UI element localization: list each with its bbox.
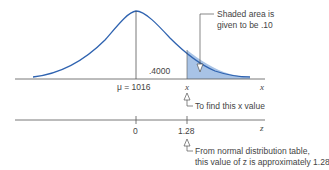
- shaded-tail-area: [187, 50, 250, 79]
- z-table-callout-line2: this value of z is approximately 1.28: [195, 157, 329, 167]
- z-axis-label: z: [259, 123, 264, 133]
- z-table-arrow-icon: [184, 139, 190, 146]
- find-x-callout: To find this x value: [195, 101, 265, 111]
- normal-distribution-diagram: .4000 Shaded area is given to be .10 μ =…: [0, 0, 329, 170]
- shaded-callout-line2: given to be .10: [217, 20, 273, 30]
- z-tick-128-label: 1.28: [178, 126, 195, 136]
- z-table-leader: [187, 146, 193, 151]
- find-x-leader: [187, 100, 193, 106]
- x-marker-label: x: [184, 82, 189, 92]
- shaded-callout-line1: Shaded area is: [217, 9, 274, 19]
- area-label: .4000: [149, 66, 171, 76]
- z-table-callout-line1: From normal distribution table,: [195, 146, 310, 156]
- z-tick-zero-label: 0: [133, 126, 138, 136]
- find-x-arrow-icon: [184, 93, 190, 100]
- top-axis-label: x: [259, 82, 264, 92]
- mean-label: μ = 1016: [117, 82, 151, 92]
